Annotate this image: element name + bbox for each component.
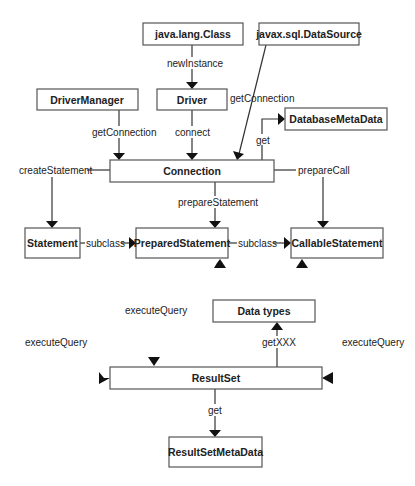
node-label: Statement — [27, 237, 78, 249]
edge-label-preparestatement: prepareStatement — [178, 197, 258, 208]
edge-label-newinstance: newInstance — [167, 58, 224, 69]
arrowhead-down-callablestatement — [317, 221, 329, 228]
node-callable-statement: CallableStatement — [291, 228, 383, 258]
node-result-set-metadata: ResultSetMetaData — [168, 437, 263, 467]
edge-label-get-dbmd: get — [256, 135, 270, 146]
node-java-lang-class: java.lang.Class — [143, 23, 243, 45]
node-label: Connection — [163, 165, 221, 177]
edge-label-ds-getconnection: getConnection — [230, 93, 295, 104]
arrowhead-down-connection-dm — [113, 153, 125, 160]
edge-label-createstatement: createStatement — [19, 165, 93, 176]
edge-label-subclass-2: subclass — [238, 238, 277, 249]
arrowhead-down-driver — [186, 82, 198, 89]
edge-label-dm-getconnection: getConnection — [92, 127, 157, 138]
node-data-types: Data types — [213, 300, 315, 322]
arrowhead-right-callablestatement — [284, 237, 291, 249]
node-prepared-statement: PreparedStatement — [134, 228, 231, 258]
edge-label-executequery-left: executeQuery — [25, 337, 87, 348]
node-label: ResultSetMetaData — [168, 446, 263, 458]
edge-label-get-rsmd: get — [208, 405, 222, 416]
edge-label-executequery-mid: executeQuery — [125, 305, 187, 316]
node-connection: Connection — [110, 160, 274, 182]
node-statement: Statement — [25, 228, 80, 258]
arrowhead-right-resultset — [99, 372, 110, 384]
arrowhead-down-resultset — [148, 357, 160, 366]
node-label: Data types — [237, 305, 290, 317]
arrowhead-down-statement — [46, 221, 58, 228]
arrowhead-left-resultset — [322, 372, 333, 384]
edge-label-executequery-right: executeQuery — [342, 337, 404, 348]
node-label: DatabaseMetaData — [289, 113, 383, 125]
node-label: PreparedStatement — [134, 237, 231, 249]
arrowhead-up-callablestatement — [296, 259, 308, 268]
node-label: ResultSet — [192, 372, 241, 384]
edge-label-getxxx: getXXX — [262, 337, 296, 348]
node-result-set: ResultSet — [110, 367, 322, 389]
node-label: java.lang.Class — [154, 28, 231, 40]
jdbc-class-diagram: java.lang.Class javax.sql.DataSource Dri… — [0, 0, 415, 486]
node-javax-sql-datasource: javax.sql.DataSource — [255, 23, 362, 45]
node-driver: Driver — [157, 89, 227, 110]
arrowhead-down-preparedstatement — [209, 221, 221, 228]
node-driver-manager: DriverManager — [37, 89, 138, 110]
edge-label-subclass-1: subclass — [86, 238, 125, 249]
node-label: javax.sql.DataSource — [255, 28, 362, 40]
edge-label-connect: connect — [175, 127, 210, 138]
node-label: DriverManager — [50, 94, 124, 106]
arrowhead-down-connection-ds — [233, 151, 244, 160]
edge-label-preparecall: prepareCall — [298, 165, 350, 176]
arrowhead-down-connection-driver — [186, 153, 198, 160]
arrowhead-up-datatypes — [271, 322, 283, 330]
arrowhead-down-rsmd — [209, 430, 221, 437]
node-label: Driver — [177, 94, 207, 106]
arrowhead-up-preparedstatement — [214, 259, 226, 268]
node-database-metadata: DatabaseMetaData — [285, 108, 387, 130]
arrowhead-right-dbmd — [278, 113, 285, 125]
node-label: CallableStatement — [291, 237, 383, 249]
